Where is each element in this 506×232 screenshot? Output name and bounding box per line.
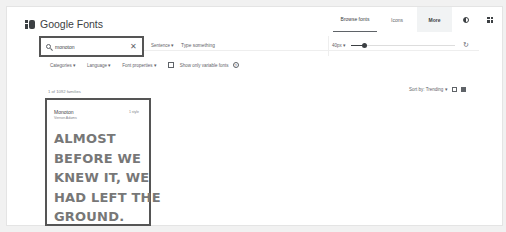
reset-icon[interactable]: ↻ <box>463 41 469 49</box>
grid-view-icon[interactable] <box>452 87 457 92</box>
sort-select[interactable]: Sort by: Trending ▾ <box>409 87 448 92</box>
search-input[interactable]: monoton ✕ <box>39 36 144 57</box>
search-icon <box>46 44 51 49</box>
slider-thumb[interactable] <box>362 43 367 48</box>
variable-fonts-label: Show only variable fonts <box>180 63 229 68</box>
font-style-count: 1 style <box>129 110 139 114</box>
sample-line: KNEW IT, WE <box>54 168 154 188</box>
sample-line: GROUND. <box>54 207 154 227</box>
apps-grid-icon <box>487 17 493 23</box>
sample-line: BEFORE WE <box>54 149 154 169</box>
font-sample-text: ALMOST BEFORE WE KNEW IT, WE HAD LEFT TH… <box>54 129 154 227</box>
apps-button[interactable] <box>480 7 500 32</box>
preview-text-input[interactable]: Type something <box>181 43 215 48</box>
search-toolbar: monoton ✕ Sentence ▾ Type something 40px… <box>39 29 479 51</box>
info-icon[interactable]: ? <box>233 62 239 68</box>
preview-mode-select[interactable]: Sentence ▾ <box>151 43 174 48</box>
language-filter[interactable]: Language ▾ <box>87 63 111 68</box>
clear-search-icon[interactable]: ✕ <box>130 42 137 51</box>
sort-controls: Sort by: Trending ▾ <box>409 87 466 92</box>
list-view-icon[interactable] <box>461 87 466 92</box>
results-count: 1 of 1092 families <box>48 89 81 94</box>
font-size-slider[interactable] <box>351 45 455 46</box>
sample-line: HAD LEFT THE <box>54 188 154 208</box>
font-name: Monoton <box>54 109 73 115</box>
filter-bar: Categories ▾ Language ▾ Font properties … <box>50 62 239 68</box>
font-size-select[interactable]: 40px ▾ <box>332 43 346 48</box>
search-value: monoton <box>55 44 130 50</box>
categories-filter[interactable]: Categories ▾ <box>50 63 76 68</box>
google-fonts-logo-icon <box>25 20 35 29</box>
divider <box>328 36 329 56</box>
font-card-monoton[interactable]: Monoton Vernon Adams 1 style ALMOST BEFO… <box>45 98 151 226</box>
font-properties-filter[interactable]: Font properties ▾ <box>122 63 157 68</box>
variable-fonts-checkbox[interactable] <box>168 62 174 68</box>
sample-line: ALMOST <box>54 129 154 149</box>
contrast-icon <box>463 17 469 23</box>
font-author: Vernon Adams <box>54 116 77 120</box>
page-frame: Google Fonts Browse fonts Icons More mon… <box>6 6 503 226</box>
